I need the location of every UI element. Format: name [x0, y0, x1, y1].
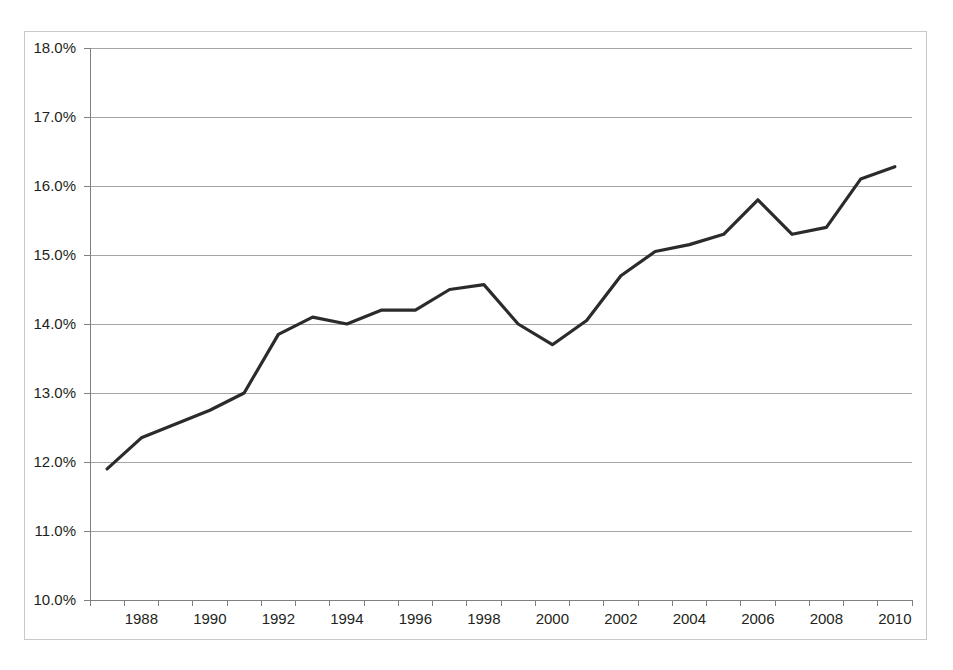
x-tick-label: 1996 [380, 611, 450, 626]
chart-container: 18.0%17.0%16.0%15.0%14.0%13.0%12.0%11.0%… [0, 0, 953, 670]
x-tick-label: 2006 [723, 611, 793, 626]
x-tick-label: 2000 [517, 611, 587, 626]
x-tick-label: 2010 [860, 611, 930, 626]
x-tick-label: 1988 [106, 611, 176, 626]
x-tick-label: 1992 [243, 611, 313, 626]
x-tick-label: 2008 [791, 611, 861, 626]
x-axis-tick-labels: 1988199019921994199619982000200220042006… [0, 0, 953, 670]
x-tick-label: 2004 [654, 611, 724, 626]
x-tick-label: 1998 [449, 611, 519, 626]
x-tick-label: 1990 [175, 611, 245, 626]
x-tick-label: 1994 [312, 611, 382, 626]
x-tick-label: 2002 [586, 611, 656, 626]
